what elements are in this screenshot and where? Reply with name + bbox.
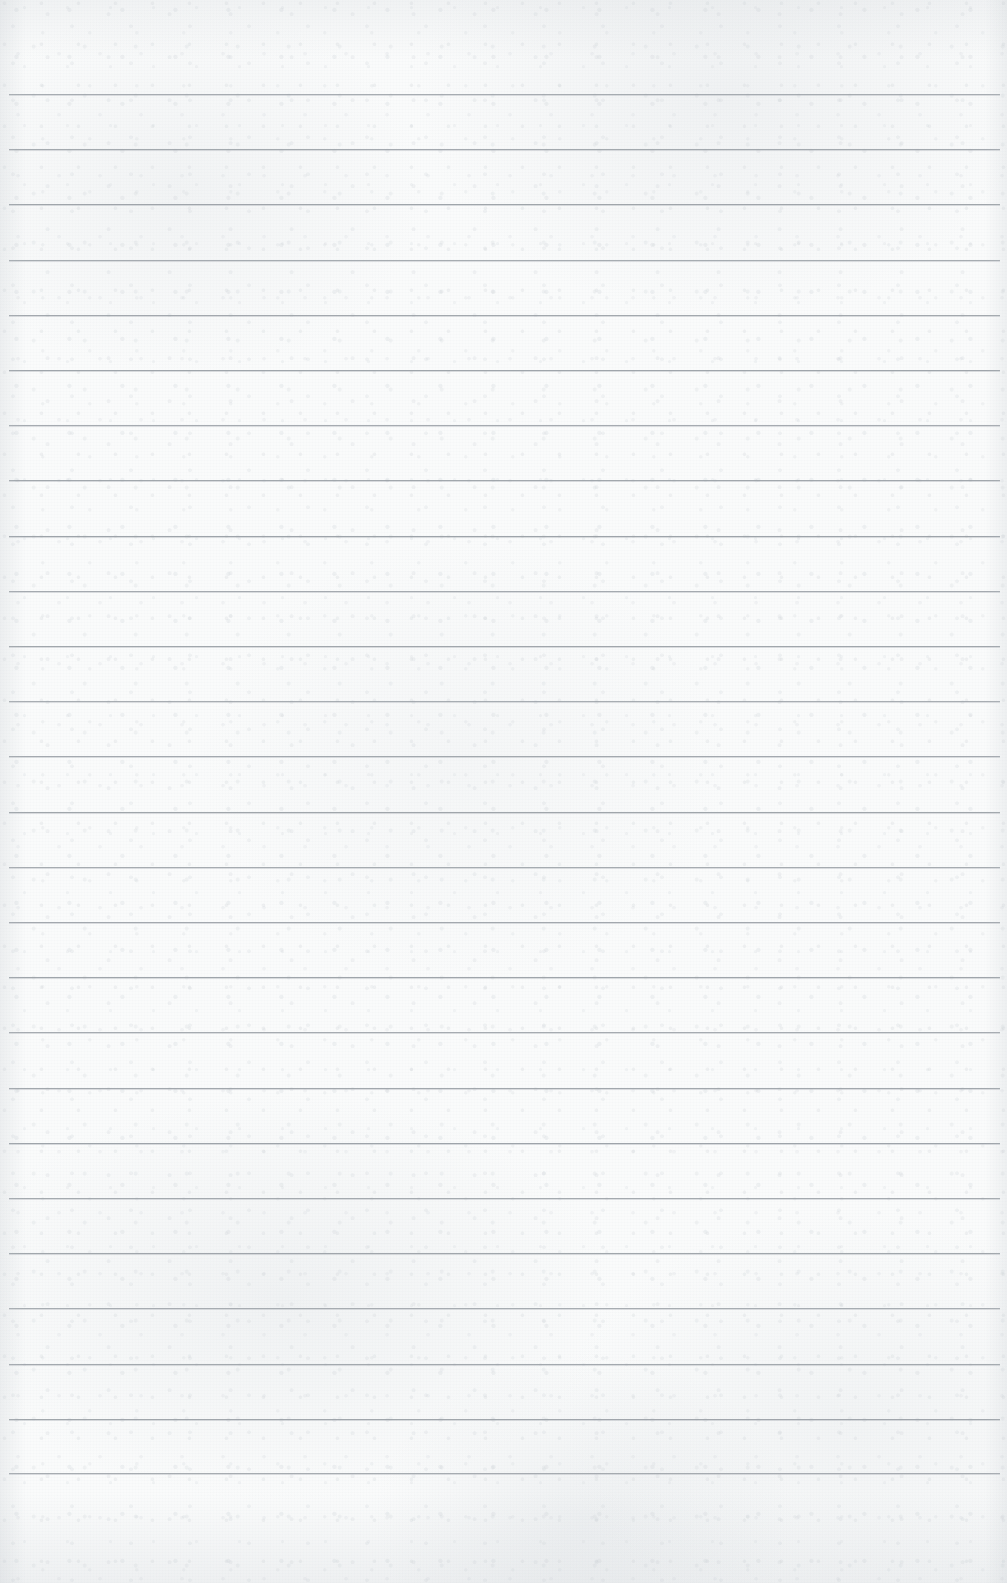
rule-line [9,480,1000,481]
rule-line [9,260,1000,261]
rule-line [9,867,1000,868]
rule-line [9,149,1000,150]
rule-line [9,315,1000,316]
rule-line [9,1308,1000,1309]
paper-fiber-speckle-layer [0,0,1007,1583]
rule-line [9,1143,1000,1144]
rule-line [9,812,1000,813]
rule-line [9,94,1000,95]
rule-line [9,204,1000,205]
rule-line [9,1253,1000,1254]
paper-weave-texture-layer [0,0,1007,1583]
rule-line [9,1198,1000,1199]
rule-line [9,425,1000,426]
rule-line [9,756,1000,757]
paper-mottling-layer [0,0,1007,1583]
rule-line [9,1032,1000,1033]
rule-line [9,370,1000,371]
ruled-paper-sheet [0,0,1007,1583]
rule-line [9,536,1000,537]
rule-line [9,1419,1000,1420]
rule-line [9,1088,1000,1089]
rule-line [9,977,1000,978]
rule-line [9,1364,1000,1365]
page-edge-shadow [0,0,1007,1583]
rule-line [9,1473,1000,1474]
rule-line-group [0,0,1007,1583]
rule-line [9,701,1000,702]
rule-line [9,922,1000,923]
rule-line [9,646,1000,647]
rule-line [9,591,1000,592]
